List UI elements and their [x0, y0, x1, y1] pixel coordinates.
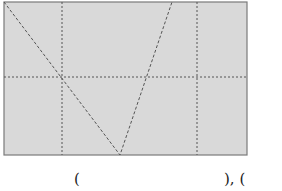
- right-paren-label: ), (: [224, 172, 245, 187]
- graph-figure: [0, 0, 282, 191]
- graph-area: [4, 2, 247, 155]
- left-paren-label: (: [74, 172, 80, 187]
